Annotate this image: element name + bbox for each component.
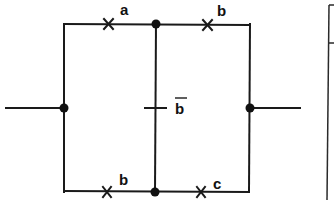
adjacent-figure-frame <box>327 5 334 200</box>
contact-b-top-label: b <box>217 2 226 19</box>
bottom-junction-node <box>151 188 160 197</box>
top-junction-node <box>152 20 161 29</box>
contact-bbar-label: b <box>175 100 184 117</box>
left-junction-node <box>60 104 69 113</box>
contact-a-label: a <box>120 1 129 18</box>
contact-b-bottom-label: b <box>119 171 128 188</box>
circuit-diagram: a b b b c <box>0 0 334 200</box>
contact-c-label: c <box>213 175 221 192</box>
right-junction-node <box>246 104 255 113</box>
